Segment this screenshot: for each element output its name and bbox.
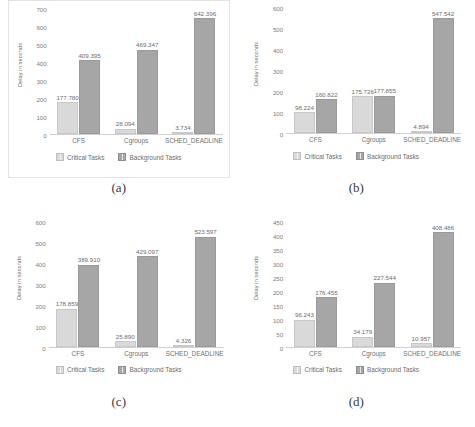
bar-fill: [352, 96, 373, 133]
x-axis-tick: CFS: [286, 350, 344, 362]
bar-groups: 98.224160.822175.726177.8554.894547.542: [286, 8, 461, 133]
bar-value-label: 409.395: [78, 52, 100, 59]
bar-fill: [294, 112, 315, 133]
bar-value-label: 178.859: [56, 300, 78, 307]
y-axis-tick: 0: [280, 131, 283, 138]
bar-value-label: 25.890: [116, 333, 135, 340]
bar-value-label: 523.597: [194, 228, 216, 235]
y-axis-tick: 200: [35, 302, 45, 309]
bar-background: 389.910: [78, 222, 99, 347]
bar-fill: [374, 283, 395, 347]
legend-label: Background Tasks: [367, 366, 419, 373]
legend-swatch-icon: [118, 153, 126, 161]
y-axis-tick: 0: [280, 344, 283, 351]
y-axis-tick: 500: [273, 26, 283, 33]
bar-group: 25.890429.097: [107, 222, 165, 347]
bar-value-label: 176.455: [315, 289, 337, 296]
bar-value-label: 98.224: [295, 104, 314, 111]
y-axis-tick: 700: [36, 6, 46, 13]
y-axis-tick: 100: [273, 316, 283, 323]
y-axis-tick: 300: [36, 78, 46, 85]
chart-panel-1: Delay in seconds700600500400300200100017…: [0, 0, 238, 214]
y-axis-tick: 400: [36, 60, 46, 67]
legend-swatch-icon: [356, 152, 364, 160]
plot-area: 98.224160.822175.726177.8554.894547.542: [286, 8, 461, 134]
bar-value-label: 469.347: [136, 41, 158, 48]
legend-item[interactable]: Critical Tasks: [293, 152, 342, 160]
bar-value-label: 4.326: [176, 337, 191, 344]
bar-value-label: 3.734: [175, 124, 190, 131]
y-axis: 450400350300250200150100500: [259, 222, 285, 348]
y-axis-tick: 600: [273, 5, 283, 12]
y-axis: 7006005004003002001000: [23, 9, 49, 135]
y-axis-tick: 250: [273, 274, 283, 281]
bar-background: 227.544: [374, 222, 395, 347]
x-axis-tick: SCHED_DEADLINE: [403, 350, 461, 362]
y-axis-tick: 150: [273, 302, 283, 309]
x-axis-tick: Cgroups: [345, 350, 403, 362]
chart-area: Delay in seconds700600500400300200100017…: [8, 0, 230, 178]
bar-background: 177.855: [374, 8, 395, 133]
bar-background: 642.396: [194, 9, 215, 134]
bar-group: 175.726177.855: [345, 8, 403, 133]
legend-swatch-icon: [293, 366, 301, 374]
x-axis-line: [49, 347, 224, 348]
legend-item[interactable]: Background Tasks: [356, 366, 419, 374]
bar-value-label: 177.855: [374, 87, 396, 94]
bar-background: 160.822: [316, 8, 337, 133]
legend: Critical TasksBackground Tasks: [9, 153, 229, 161]
x-axis-tick: Cgroups: [345, 136, 403, 148]
x-axis-tick: SCHED_DEADLINE: [165, 137, 223, 149]
y-axis-tick: 0: [42, 344, 45, 351]
bar-critical: 175.726: [352, 8, 373, 133]
legend: Critical TasksBackground Tasks: [245, 366, 467, 374]
y-axis-tick: 600: [35, 218, 45, 225]
panel-caption: (a): [112, 180, 126, 196]
bar-fill: [374, 96, 395, 133]
bar-value-label: 4.894: [413, 123, 428, 130]
legend-label: Background Tasks: [129, 366, 181, 373]
bar-background: 176.455: [316, 222, 337, 347]
bar-value-label: 160.822: [315, 91, 337, 98]
bar-critical: 10.957: [411, 222, 432, 347]
bar-fill: [78, 265, 99, 347]
legend: Critical TasksBackground Tasks: [245, 152, 467, 160]
x-axis: CFSCgroupsSCHED_DEADLINE: [286, 350, 461, 362]
legend-item[interactable]: Background Tasks: [356, 152, 419, 160]
x-axis-line: [286, 347, 461, 348]
bar-fill: [294, 320, 315, 347]
legend-label: Critical Tasks: [304, 366, 342, 373]
bar-critical: 4.894: [411, 8, 432, 133]
bar-background: 523.597: [195, 222, 216, 347]
bar-background: 408.486: [433, 222, 454, 347]
legend-item[interactable]: Critical Tasks: [56, 153, 105, 161]
chart-area: Delay in seconds6005004003002001000178.8…: [8, 214, 230, 392]
x-axis-tick: Cgroups: [107, 137, 165, 149]
bar-critical: 4.326: [173, 222, 194, 347]
legend-item[interactable]: Critical Tasks: [56, 366, 105, 374]
bar-group: 4.326523.597: [165, 222, 223, 347]
bar-group: 96.243176.455: [286, 222, 344, 347]
legend-item[interactable]: Background Tasks: [118, 153, 181, 161]
y-axis-tick: 200: [273, 89, 283, 96]
bar-background: 429.097: [137, 222, 158, 347]
y-axis-tick: 100: [36, 114, 46, 121]
bar-fill: [137, 50, 158, 134]
legend-swatch-icon: [356, 366, 364, 374]
y-axis-tick: 100: [35, 323, 45, 330]
bar-fill: [195, 237, 216, 347]
plot-area: 178.859389.91025.890429.0974.326523.597: [49, 222, 224, 348]
bar-groups: 177.780409.39528.094469.3473.734642.396: [50, 9, 223, 134]
bar-fill: [352, 337, 373, 347]
legend-label: Critical Tasks: [67, 154, 105, 161]
bar-background: 409.395: [79, 9, 100, 134]
y-axis: 6005004003002001000: [259, 8, 285, 134]
bar-value-label: 408.486: [432, 224, 454, 231]
y-axis-tick: 400: [35, 260, 45, 267]
x-axis-line: [50, 134, 223, 135]
legend-item[interactable]: Critical Tasks: [293, 366, 342, 374]
y-axis-tick: 400: [273, 47, 283, 54]
bar-critical: 98.224: [294, 8, 315, 133]
legend-swatch-icon: [56, 366, 64, 374]
legend-item[interactable]: Background Tasks: [118, 366, 181, 374]
